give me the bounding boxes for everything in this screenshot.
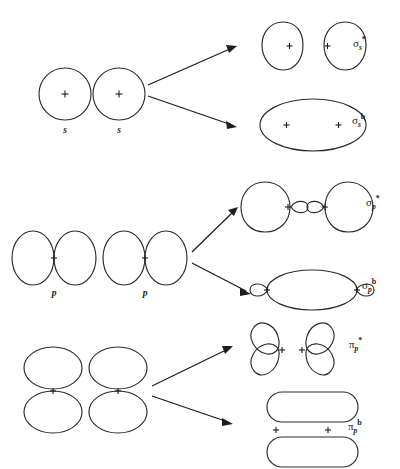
sign-plus-sigma-s-anti-left xyxy=(287,43,293,49)
row-pi-p: πp* πpb xyxy=(24,323,362,467)
label-sigma-p-bonding: σpb xyxy=(362,277,377,294)
p-pi-orbital-2-top-lobe xyxy=(89,347,147,389)
arrow-to-sigma-s-antibonding xyxy=(148,45,237,85)
arrow-to-sigma-p-bonding xyxy=(192,263,251,296)
atomic-label-p-sigma-2: p xyxy=(142,288,148,298)
label-sigma-s-bonding: σsb xyxy=(352,112,366,129)
pi-p-antibonding-orbital: πp* xyxy=(251,323,362,375)
label-sigma-p-antibonding: σp* xyxy=(366,194,380,211)
sign-plus-s-right xyxy=(116,91,123,98)
atomic-orbital-group-s: s s xyxy=(39,68,145,135)
p-pi-orbital-2-bottom-lobe xyxy=(89,391,147,433)
sign-plus-pi-p-anti-right xyxy=(299,347,305,353)
sign-plus-pi-p-bond-right xyxy=(325,427,331,433)
arrow-to-pi-p-antibonding xyxy=(152,346,233,386)
diagram-canvas: s s xyxy=(0,0,400,469)
sign-plus-sigma-s-bond-right xyxy=(336,122,342,128)
p-orbital-2-left-lobe xyxy=(103,231,145,285)
row-sigma-p: p p xyxy=(12,182,380,310)
arrow-to-sigma-s-bonding xyxy=(148,96,237,129)
label-pi-p-bonding: πpb xyxy=(348,418,362,435)
p-orbital-1-right-lobe xyxy=(54,231,96,285)
sigma-s-antibonding-orbital: σs* xyxy=(262,22,366,70)
sign-plus-sigma-s-bond-left xyxy=(284,122,290,128)
p-orbital-1-left-lobe xyxy=(12,231,54,285)
label-pi-p-antibonding: πp* xyxy=(349,336,362,353)
sign-plus-pi-p-bond-left xyxy=(273,427,279,433)
sign-plus-sigma-p-bond-right xyxy=(354,287,360,293)
p-pi-orbital-1-top-lobe xyxy=(24,347,82,389)
p-orbital-2-right-lobe xyxy=(145,231,187,285)
sign-plus-p-sigma-2 xyxy=(142,255,148,261)
atomic-label-s-right: s xyxy=(116,125,121,135)
atomic-orbital-group-p-pi xyxy=(24,347,147,433)
sign-plus-s-left xyxy=(62,91,69,98)
molecular-orbital-diagram: s s xyxy=(0,0,400,469)
sigma-p-bonding-orbital: σpb xyxy=(250,270,377,310)
arrow-to-sigma-p-antibonding xyxy=(192,207,238,252)
label-sigma-s-antibonding: σs* xyxy=(353,35,366,52)
pi-p-bonding-orbital: πpb xyxy=(267,392,362,467)
sign-plus-pi-p-anti-left xyxy=(279,347,285,353)
sign-plus-p-sigma-1 xyxy=(51,255,57,261)
sign-plus-sigma-s-anti-right xyxy=(325,43,331,49)
p-pi-orbital-1-bottom-lobe xyxy=(24,391,82,433)
sigma-p-antibonding-orbital: σp* xyxy=(241,182,380,232)
atomic-orbital-group-p-sigma: p p xyxy=(12,231,187,298)
atomic-label-s-left: s xyxy=(62,125,67,135)
sigma-s-bonding-orbital: σsb xyxy=(260,99,366,151)
sign-plus-sigma-p-bond-left xyxy=(264,287,270,293)
atomic-label-p-sigma-1: p xyxy=(51,288,57,298)
row-sigma-s: s s xyxy=(39,22,366,151)
arrow-to-pi-p-bonding xyxy=(152,396,233,426)
